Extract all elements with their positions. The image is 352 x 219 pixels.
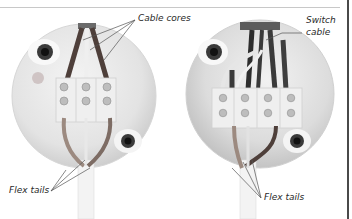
label-switch-cable-line2: cable bbox=[306, 27, 330, 38]
right-ceiling-rose bbox=[186, 20, 334, 219]
fixing-screw-hole bbox=[114, 129, 142, 153]
terminal-block bbox=[212, 88, 302, 128]
terminal-block bbox=[56, 78, 116, 122]
wiring-illustration bbox=[0, 0, 352, 219]
label-switch-cable-line1: Switch bbox=[306, 15, 336, 26]
label-cable-cores: Cable cores bbox=[138, 13, 191, 24]
wiring-figure: Cable cores Switch cable Flex tails Flex… bbox=[0, 0, 352, 219]
fixing-screw-hole bbox=[28, 39, 60, 65]
label-flex-tails-left: Flex tails bbox=[9, 185, 49, 196]
label-flex-tails-right: Flex tails bbox=[264, 192, 304, 203]
fixing-screw-hole bbox=[198, 39, 228, 65]
fixing-screw-hole bbox=[283, 129, 311, 153]
